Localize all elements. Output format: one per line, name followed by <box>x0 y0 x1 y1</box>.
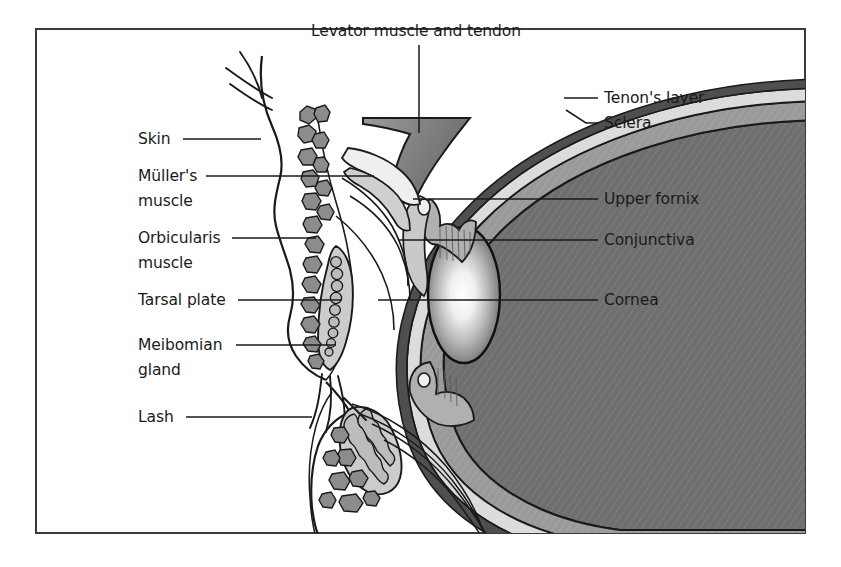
label-skin: Skin <box>138 130 171 148</box>
label-tenons-layer: Tenon's layer <box>603 89 705 107</box>
label-cornea: Cornea <box>604 291 659 309</box>
label-orbicularis-muscle-line1: Orbicularis <box>138 229 221 247</box>
eyelid-cross-section-diagram: Levator muscle and tendon Skin Müller's … <box>0 0 841 567</box>
label-meibomian-gland-line1: Meibomian <box>138 336 222 354</box>
label-sclera: Sclera <box>604 114 651 132</box>
label-levator-muscle-and-tendon: Levator muscle and tendon <box>311 22 521 40</box>
label-meibomian-gland-line2: gland <box>138 361 181 379</box>
lower-fornix-nodule <box>418 373 430 387</box>
label-mullers-muscle-line1: Müller's <box>138 167 197 185</box>
label-tarsal-plate: Tarsal plate <box>137 291 226 309</box>
label-mullers-muscle-line2: muscle <box>138 192 193 210</box>
label-conjunctiva: Conjunctiva <box>604 231 695 249</box>
label-upper-fornix: Upper fornix <box>604 190 699 208</box>
label-lash: Lash <box>138 408 174 426</box>
label-orbicularis-muscle-line2: muscle <box>138 254 193 272</box>
anatomy-figure: Levator muscle and tendon Skin Müller's … <box>0 0 841 567</box>
